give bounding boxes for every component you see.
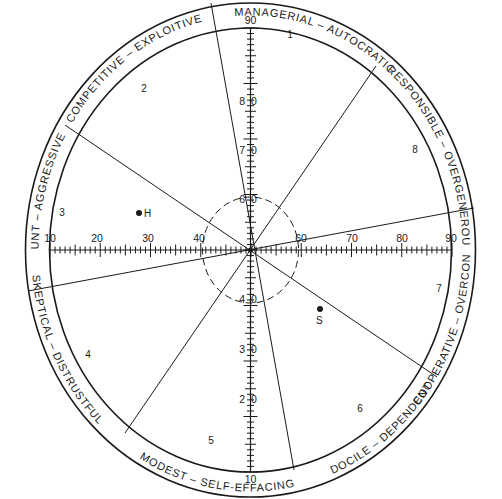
ring-label-8: RESPONSIBLE – OVERGENEROUS: [0, 0, 473, 246]
ring-label-3: BLUNT – AGGRESSIVE: [0, 0, 68, 249]
v-label-20: 20: [239, 393, 263, 405]
v-label-40: 40: [239, 293, 263, 305]
point-h-marker: [136, 210, 142, 216]
ring-label-7: COOPERATIVE – OVERCONVENTIONAL: [0, 0, 472, 407]
ring-label-4: SKEPTICAL – DISTRUSTFUL: [30, 274, 106, 426]
h-label-70: 70: [346, 232, 358, 244]
octant-number-2: 2: [141, 83, 147, 94]
point-h-label: H: [144, 208, 151, 219]
h-label-10: 10: [44, 232, 56, 244]
v-label-80: 80: [239, 95, 263, 107]
point-s-marker: [317, 306, 323, 312]
circumplex-diagram: 10 20 30 40 60 70 80 90 90 80 70 60 40 3…: [0, 0, 502, 499]
octant-number-5: 5: [208, 435, 214, 446]
octant-number-3: 3: [59, 207, 65, 218]
octant-number-8: 8: [412, 144, 418, 155]
v-label-70: 70: [239, 144, 263, 156]
data-points: H S: [136, 208, 323, 326]
point-s-label: S: [316, 315, 323, 326]
octant-number-6: 6: [357, 403, 363, 414]
h-label-40: 40: [193, 232, 205, 244]
v-label-30: 30: [239, 343, 263, 355]
octant-number-7: 7: [436, 283, 442, 294]
h-label-20: 20: [91, 232, 103, 244]
h-label-30: 30: [142, 232, 154, 244]
ring-label-2: COMPETITIVE – EXPLOITIVE: [63, 12, 203, 125]
h-label-80: 80: [396, 232, 408, 244]
center-dot: [248, 248, 253, 253]
v-label-60: 60: [239, 193, 263, 205]
octant-number-4: 4: [85, 349, 91, 360]
octant-number-1: 1: [287, 29, 293, 40]
h-label-90: 90: [445, 232, 457, 244]
ring-label-5: MODEST – SELF-EFFACING: [138, 450, 296, 494]
h-label-60: 60: [295, 232, 307, 244]
